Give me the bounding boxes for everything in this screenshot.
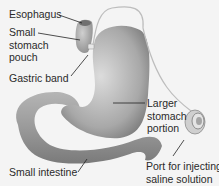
- label-small-stomach-pouch: Small stomach pouch: [9, 26, 49, 64]
- label-larger-stomach-portion: Larger stomach portion: [147, 97, 187, 135]
- label-gastric-band: Gastric band: [9, 72, 69, 85]
- label-small-intestine: Small intestine: [9, 166, 77, 179]
- injection-port-icon: [185, 110, 205, 134]
- label-esophagus: Esophagus: [9, 8, 62, 21]
- larger-stomach-shape: [61, 26, 149, 139]
- label-port: Port for injecting saline solution: [146, 160, 219, 185]
